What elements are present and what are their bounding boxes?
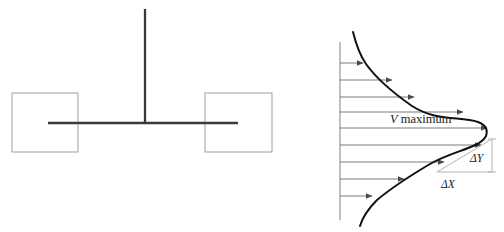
- figure-canvas: V maximum ΔY ΔX: [0, 0, 504, 232]
- velocity-profile-curve: [353, 32, 487, 226]
- v-maximum-text: maximum: [398, 112, 452, 126]
- velocity-profile-plot: [340, 32, 496, 226]
- label-delta-x: ΔX: [441, 178, 455, 190]
- velocity-arrow-group: [340, 63, 487, 196]
- label-delta-y: ΔY: [470, 152, 483, 164]
- label-v-maximum: V maximum: [390, 112, 451, 127]
- v-maximum-symbol: V: [390, 112, 398, 126]
- triangle-hypotenuse-tangent: [437, 139, 492, 172]
- plate-and-shaft-schematic: [12, 9, 272, 152]
